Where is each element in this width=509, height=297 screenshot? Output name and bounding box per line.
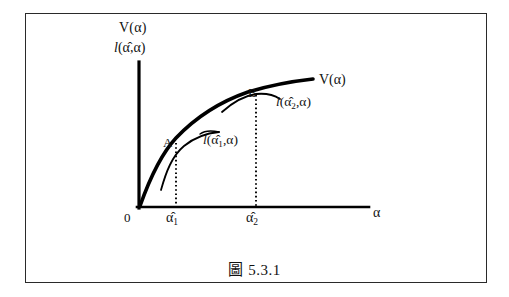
x-axis-label: α	[373, 206, 380, 220]
curve-label-v-alpha: V(α)	[319, 73, 346, 87]
y-axis-label-v: V(α)	[119, 21, 147, 35]
curve-label-l-alpha1: l(α̂1,α)	[203, 133, 238, 149]
origin-label: 0	[124, 211, 131, 224]
curve-label-l-alpha2: l(α̂2,α)	[276, 95, 311, 111]
y-axis-label-l: l(α̂,α)	[114, 41, 145, 55]
figure-container: V(α) l(α̂,α) V(α) l(α̂1,α) l(α̂2,α) A B …	[0, 0, 509, 297]
x-tick-alpha-hat-1: α̂1	[166, 211, 178, 227]
plot-canvas	[0, 0, 509, 297]
figure-caption: 圖 5.3.1	[0, 258, 509, 279]
point-label-a: A	[163, 136, 172, 149]
point-label-b: B	[248, 86, 257, 99]
x-tick-alpha-hat-2: α̂2	[246, 211, 258, 227]
